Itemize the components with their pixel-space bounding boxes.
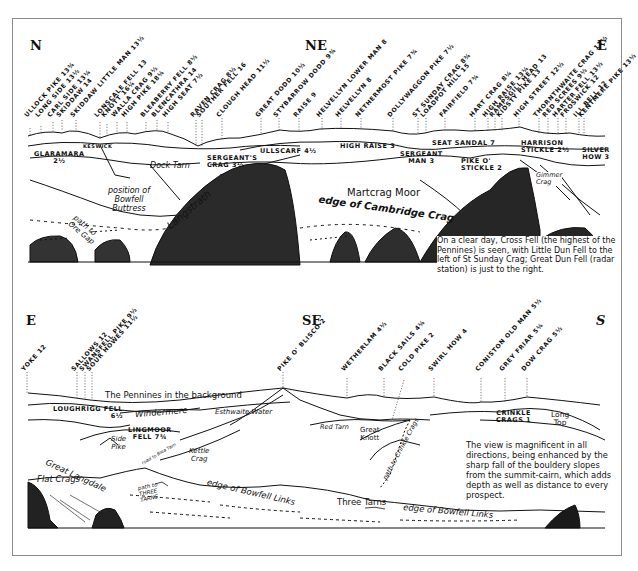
compass-n: N (30, 38, 42, 53)
label-pennines: The Pennines in the background (105, 391, 242, 400)
label-martcrag-moor: Martcrag Moor (347, 187, 420, 198)
label-bowfell-buttress: position of Bowfell Buttress (108, 187, 150, 213)
label-harrison-stickle: HARRISON STICKLE 2½ (521, 140, 569, 154)
label-kettle-crag: Kettle Crag (189, 448, 209, 463)
label-crinkle-crags: CRINKLE CRAGS 1 (496, 410, 531, 424)
label-sergeants-crag: SERGEANT'S CRAG 3½ (207, 155, 257, 169)
note-cross-fell: On a clear day, Cross Fell (the highest … (437, 236, 619, 274)
compass-s: S (596, 313, 605, 328)
label-three-tarns: Three Tarns (337, 498, 386, 507)
label-glaramara: GLARAMARA 2½ (34, 151, 85, 165)
label-great-knott: Great Knott (360, 427, 380, 442)
label-pike-o-stickle: PIKE O' STICKLE 2 (461, 158, 502, 172)
label-side-pike: Side Pike (111, 436, 126, 451)
label-silver-how: SILVER HOW 3 (582, 147, 610, 161)
label-loughrigg-fell: LOUGHRIGG FELL 6½ (53, 406, 123, 420)
note-view-magnificent: The view is magnificent in all direction… (466, 441, 614, 501)
label-ullscarf: ULLSCARF 4½ (260, 148, 317, 155)
compass-e-bottom: E (26, 313, 36, 328)
label-flat-crags: Flat Crags (37, 475, 80, 484)
compass-ne: NE (305, 38, 327, 53)
label-esthwaite-water: Esthwaite Water (215, 409, 272, 417)
label-sergeant-man: SERGEANT MAN 3 (400, 151, 443, 165)
label-seat-sandal: SEAT SANDAL 7 (432, 140, 495, 147)
label-dock-tarn: Dock Tarn (150, 162, 190, 171)
label-keswick: KESWICK (83, 144, 112, 149)
label-high-raise: HIGH RAISE 3 (340, 143, 395, 150)
label-gimmer-crag: Gimmer Crag (536, 172, 562, 186)
label-long-top: Long Top (551, 411, 569, 428)
label-lingmoor-fell: LINGMOOR FELL 7¾ (128, 427, 172, 441)
label-red-tarn: Red Tarn (320, 424, 349, 431)
